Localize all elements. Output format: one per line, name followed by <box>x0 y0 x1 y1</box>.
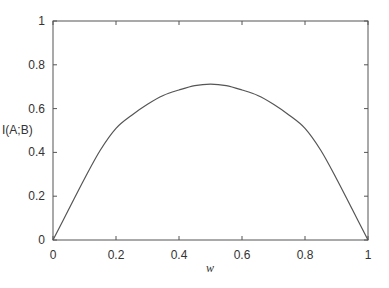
plot-frame <box>53 21 368 240</box>
y-tick-label: 0.2 <box>28 189 45 203</box>
y-tick-label: 1 <box>38 14 45 28</box>
y-axis-label: I(A;B) <box>2 123 33 137</box>
line-chart: 00.20.40.60.8100.20.40.60.81 I(A;B) w <box>0 0 389 288</box>
x-tick-label: 0.6 <box>234 248 251 262</box>
axis-ticks: 00.20.40.60.8100.20.40.60.81 <box>28 14 371 262</box>
plot-area <box>53 21 368 240</box>
y-tick-label: 0 <box>38 233 45 247</box>
x-axis-label: w <box>206 261 214 275</box>
x-tick-label: 0 <box>50 248 57 262</box>
x-tick-label: 0.8 <box>297 248 314 262</box>
y-tick-label: 0.6 <box>28 102 45 116</box>
y-tick-label: 0.8 <box>28 58 45 72</box>
x-tick-label: 0.2 <box>108 248 125 262</box>
series-line <box>53 84 368 240</box>
x-tick-label: 0.4 <box>171 248 188 262</box>
x-tick-label: 1 <box>365 248 372 262</box>
y-tick-label: 0.4 <box>28 145 45 159</box>
